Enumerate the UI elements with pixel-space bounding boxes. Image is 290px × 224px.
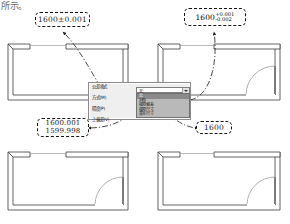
dialog-control-column: 无 无 对称 极限偏差 极限尺寸 基本尺寸 [136,87,190,118]
callout-top-right: 1600 +0.001 -0.002 [184,8,246,26]
mode-label: 方式(M) [92,96,132,100]
plan-bottom-right [156,146,286,218]
method-label: 公差格式 [92,85,132,89]
precision-label: 精度(P) [92,107,132,111]
callout-top-right-nominal: 1600 [196,13,215,22]
callout-bottom-left-value: 1600.001 1599.998 [45,120,80,135]
tolerance-method-listbox[interactable]: 无 对称 极限偏差 极限尺寸 基本尺寸 [136,93,190,118]
tolerance-method-combo[interactable]: 无 [136,87,190,93]
callout-bottom-left: 1600.001 1599.998 [37,118,89,137]
callout-top-left-value: 1600±0.001 [38,16,87,24]
list-item[interactable]: 基本尺寸 [137,112,189,117]
callout-top-right-tolerance: +0.001 -0.002 [215,12,234,22]
plan-bottom-left [6,146,134,218]
callout-top-left: 1600±0.001 [35,12,90,27]
callout-top-right-value: 1600 +0.001 -0.002 [196,12,235,22]
page-fragment-text: 所示。 [1,0,27,12]
screenshot-root: 所示。 [0,0,290,224]
callout-bottom-right-value: 1600 [204,124,224,132]
tolerance-method-value: 无 [139,88,143,94]
dimension-tolerance-dialog[interactable]: 公差格式 方式(M) 精度(P) 上偏差(V) 无 无 对称 极限偏差 极限尺寸… [88,82,191,120]
chevron-down-icon[interactable] [182,88,189,93]
callout-top-right-lower: -0.002 [215,17,234,22]
callout-bottom-left-lower: 1599.998 [45,128,80,135]
dialog-label-column: 公差格式 方式(M) 精度(P) 上偏差(V) [92,85,132,129]
upper-deviation-label: 上偏差(V) [92,118,132,122]
callout-bottom-right: 1600 [196,121,232,134]
